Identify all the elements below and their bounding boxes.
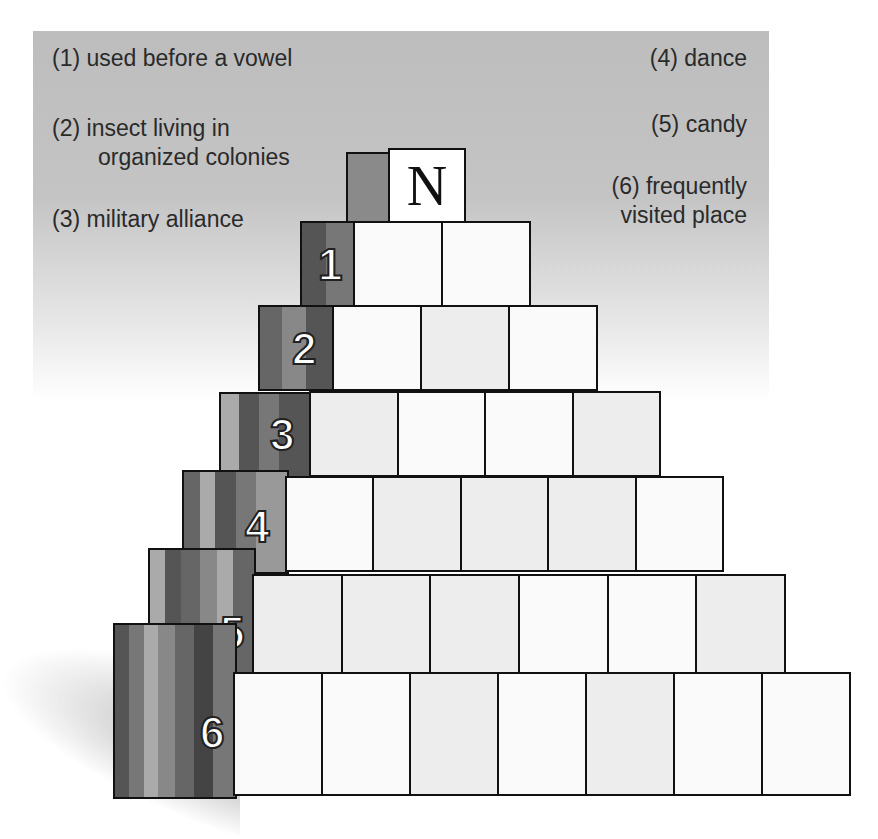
answer-cell[interactable]	[233, 672, 323, 796]
answer-cell[interactable]	[353, 221, 443, 307]
answer-cell[interactable]	[252, 574, 343, 682]
row-6	[235, 672, 851, 796]
clue-6: (6) frequently visited place	[611, 172, 747, 230]
answer-cell[interactable]	[585, 672, 675, 796]
answer-cell[interactable]	[332, 305, 422, 391]
row-3-side	[219, 392, 313, 478]
row-5	[254, 574, 786, 682]
answer-cell[interactable]	[372, 476, 461, 572]
clue-1: (1) used before a vowel	[52, 44, 292, 73]
row-4	[287, 476, 724, 572]
row-2	[334, 305, 598, 391]
clue-3: (3) military alliance	[52, 205, 244, 234]
answer-cell[interactable]	[497, 672, 587, 796]
answer-cell[interactable]	[518, 574, 609, 682]
answer-cell[interactable]	[635, 476, 724, 572]
n-block: N	[388, 148, 466, 224]
answer-cell[interactable]	[420, 305, 510, 391]
answer-cell[interactable]	[429, 574, 520, 682]
answer-cell[interactable]	[607, 574, 698, 682]
row-6-label: 6	[200, 708, 224, 758]
clue-4: (4) dance	[650, 44, 747, 73]
row-3	[311, 391, 661, 477]
answer-cell[interactable]	[321, 672, 411, 796]
answer-cell[interactable]	[547, 476, 636, 572]
answer-cell[interactable]	[761, 672, 851, 796]
row-1-label: 1	[318, 240, 342, 290]
answer-cell[interactable]	[285, 476, 374, 572]
clue-2: (2) insect living in organized colonies	[52, 114, 290, 172]
clue-5: (5) candy	[651, 110, 747, 139]
answer-cell[interactable]	[460, 476, 549, 572]
answer-cell[interactable]	[441, 221, 531, 307]
answer-cell[interactable]	[341, 574, 432, 682]
answer-cell[interactable]	[508, 305, 598, 391]
answer-cell[interactable]	[572, 391, 662, 477]
row-4-label: 4	[245, 502, 269, 552]
row-2-label: 2	[292, 324, 316, 374]
n-block-side	[346, 152, 390, 224]
answer-cell[interactable]	[673, 672, 763, 796]
answer-cell[interactable]	[409, 672, 499, 796]
answer-cell[interactable]	[484, 391, 574, 477]
answer-cell[interactable]	[309, 391, 399, 477]
answer-cell[interactable]	[695, 574, 786, 682]
answer-cell[interactable]	[397, 391, 487, 477]
row-1	[355, 221, 531, 307]
row-3-label: 3	[270, 410, 294, 460]
